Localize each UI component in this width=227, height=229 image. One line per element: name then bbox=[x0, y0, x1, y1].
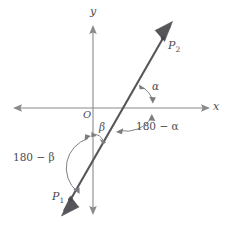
inclined-line-segment bbox=[64, 26, 170, 211]
angle-label-beta: β bbox=[99, 122, 105, 133]
angle-label-supplement-alpha: 180 − α bbox=[136, 121, 179, 132]
angle-label-alpha: α bbox=[152, 81, 159, 92]
angle-arc-supplement-beta-curve bbox=[66, 139, 88, 192]
geometry-figure: y x O α 180 − α β 180 − β P2 P1 bbox=[0, 0, 227, 229]
angle-arc-alpha-arrow-end bbox=[149, 97, 156, 104]
angle-arc-alpha-arrow-start bbox=[139, 85, 146, 90]
inclined-line bbox=[62, 22, 173, 217]
x-axis bbox=[13, 104, 210, 112]
y-axis-label: y bbox=[90, 6, 96, 17]
figure-canvas bbox=[0, 0, 227, 229]
point-label-p2: P2 bbox=[168, 40, 180, 54]
point-label-p2-subscript: 2 bbox=[175, 45, 180, 54]
point-label-p1-subscript: 1 bbox=[59, 196, 64, 205]
angle-arc-supplement-beta-arrow-start bbox=[85, 134, 91, 140]
angle-arc-supplement-alpha-arrow-start bbox=[116, 128, 123, 134]
point-marker-p1 bbox=[68, 197, 73, 202]
origin-label: O bbox=[83, 110, 91, 120]
y-axis bbox=[89, 25, 97, 215]
x-axis-label: x bbox=[213, 101, 219, 112]
point-label-p1: P1 bbox=[52, 191, 64, 205]
angle-label-supplement-beta: 180 − β bbox=[13, 152, 55, 163]
point-marker-p2 bbox=[161, 36, 166, 41]
